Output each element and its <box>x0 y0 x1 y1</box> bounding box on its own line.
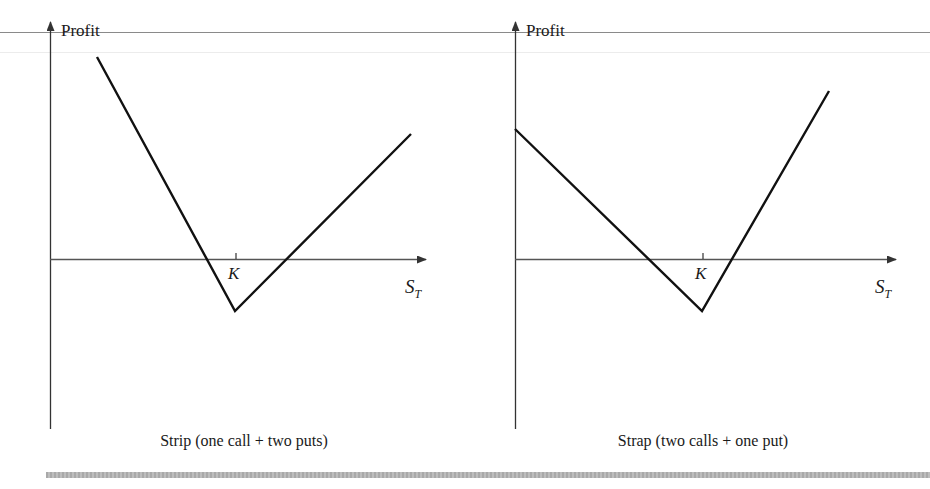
strip-profit-line <box>97 57 411 311</box>
strap-chart <box>515 22 896 429</box>
strip-x-label-sub: T <box>415 287 422 301</box>
strap-profit-line <box>515 91 829 311</box>
strap-k-label: K <box>695 264 706 284</box>
strap-x-label-sub: T <box>885 287 892 301</box>
strap-caption: Strap (two calls + one put) <box>553 432 853 450</box>
strip-caption: Strip (one call + two puts) <box>94 432 394 450</box>
strap-y-label: Profit <box>526 21 565 41</box>
strip-y-label: Profit <box>61 21 100 41</box>
strip-x-label: ST <box>405 276 421 302</box>
strip-x-label-main: S <box>405 276 415 297</box>
strap-x-label-main: S <box>875 276 885 297</box>
strip-k-label: K <box>228 264 239 284</box>
strap-x-label: ST <box>875 276 891 302</box>
strip-chart <box>50 22 426 429</box>
bottom-rule <box>46 472 930 478</box>
charts-canvas <box>0 0 930 489</box>
